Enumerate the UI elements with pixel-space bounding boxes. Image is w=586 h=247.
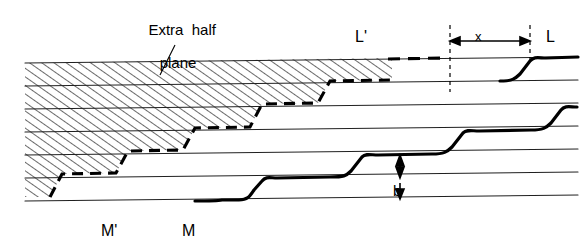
label-L: L (546, 28, 555, 45)
label-M-prime: M' (101, 222, 117, 239)
label-extra-half-plane: Extra half plane (118, 6, 238, 87)
dashed-step-top-run (388, 58, 445, 59)
label-x-dimension: x (475, 30, 482, 44)
label-extra-half-plane-line2: plane (118, 55, 238, 71)
x-dimension-arrow (450, 37, 530, 45)
lattice-line-7 (25, 195, 578, 201)
dislocation-diagram (0, 0, 586, 247)
label-extra-half-plane-line1: Extra half (148, 21, 216, 38)
label-M: M (182, 222, 195, 239)
label-b-dimension: b (393, 183, 401, 199)
label-L-prime: L' (355, 28, 367, 45)
lattice-line-8 (25, 204, 578, 210)
solid-step-top-run (500, 57, 578, 81)
